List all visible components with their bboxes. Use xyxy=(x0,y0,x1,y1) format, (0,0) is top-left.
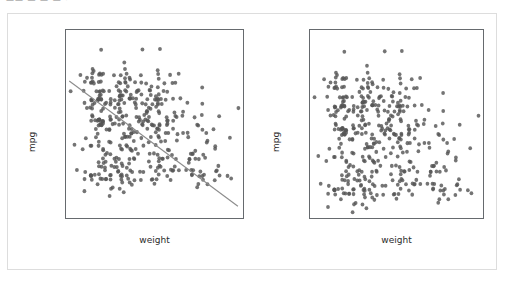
left-xtick-4500: 4500 xyxy=(197,218,219,219)
right-xtick-2000: 2000 xyxy=(325,218,347,219)
left-axes: 5 10 15 20 25 30 35 40 45 1500 2000 2500… xyxy=(65,29,244,219)
right-xtick-3500: 3500 xyxy=(393,218,415,219)
tick-dash xyxy=(381,218,382,219)
right-axes: 10 15 20 25 30 35 40 45 1500 2000 2500 3… xyxy=(309,29,484,219)
tick-dash xyxy=(231,218,232,219)
left-xtick-3000: 3000 xyxy=(128,218,150,219)
left-xtick-2000: 2000 xyxy=(82,218,104,219)
right-scatter-canvas xyxy=(310,30,483,218)
tick-dash xyxy=(161,218,162,219)
right-x-axis-label: weight xyxy=(309,235,484,245)
tick-dash xyxy=(448,218,449,219)
tick-dash xyxy=(69,218,70,219)
right-xtick-5000: 5000 xyxy=(461,218,483,219)
screenshot-root: —— — — — · mpg 5 10 15 20 25 30 35 40 45 xyxy=(0,0,511,283)
tick-dash xyxy=(184,218,185,219)
tick-dash xyxy=(335,218,336,219)
right-xtick-1500: 1500 xyxy=(309,218,324,219)
left-scatter-canvas xyxy=(66,30,243,218)
matplotlib-figure: mpg 5 10 15 20 25 30 35 40 45 1500 2000 … xyxy=(8,14,496,269)
tick-dash xyxy=(92,218,93,219)
tick-dash xyxy=(358,218,359,219)
tick-dash xyxy=(208,218,209,219)
left-xtick-1500: 1500 xyxy=(65,218,80,219)
panel-scatter-with-regression: mpg 5 10 15 20 25 30 35 40 45 1500 2000 … xyxy=(8,14,252,269)
right-xtick-4500: 4500 xyxy=(438,218,460,219)
right-xtick-4000: 4000 xyxy=(415,218,437,219)
right-y-axis-label: mpg xyxy=(271,131,281,151)
left-xtick-5000: 5000 xyxy=(220,218,242,219)
tick-dash xyxy=(403,218,404,219)
right-xtick-2500: 2500 xyxy=(348,218,370,219)
left-xtick-4000: 4000 xyxy=(174,218,196,219)
left-y-axis-label: mpg xyxy=(27,131,37,151)
left-xtick-2500: 2500 xyxy=(105,218,127,219)
truncated-top-text: —— — — — · xyxy=(6,0,69,5)
tick-dash xyxy=(138,218,139,219)
tick-dash xyxy=(313,218,314,219)
right-xtick-3000: 3000 xyxy=(370,218,392,219)
tick-dash xyxy=(471,218,472,219)
left-xtick-3500: 3500 xyxy=(151,218,173,219)
panel-scatter-plain: mpg 10 15 20 25 30 35 40 45 1500 2000 25… xyxy=(252,14,496,269)
left-x-axis-label: weight xyxy=(65,235,244,245)
tick-dash xyxy=(115,218,116,219)
tick-dash xyxy=(426,218,427,219)
figure-card: mpg 5 10 15 20 25 30 35 40 45 1500 2000 … xyxy=(7,13,497,270)
